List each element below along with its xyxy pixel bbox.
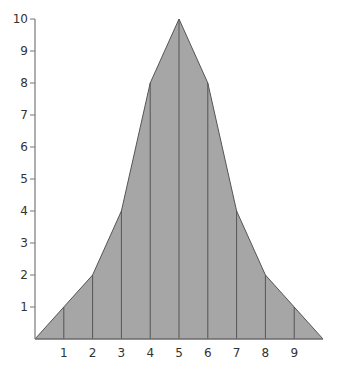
y-tick-label: 5: [20, 172, 28, 186]
x-tick-label: 3: [118, 346, 126, 360]
y-tick-label: 10: [13, 12, 28, 26]
x-tick-label: 7: [233, 346, 241, 360]
area-chart: 123456789 12345678910: [0, 0, 346, 374]
x-tick-label: 9: [290, 346, 298, 360]
y-tick-label: 9: [20, 44, 28, 58]
y-tick-label: 1: [20, 300, 28, 314]
y-tick-label: 6: [20, 140, 28, 154]
y-axis-tick-labels: 12345678910: [13, 12, 28, 314]
x-tick-label: 1: [60, 346, 68, 360]
y-tick-label: 3: [20, 236, 28, 250]
y-tick-label: 8: [20, 76, 28, 90]
y-tick-label: 4: [20, 204, 28, 218]
y-tick-label: 2: [20, 268, 28, 282]
x-tick-label: 2: [89, 346, 97, 360]
x-axis-tick-labels: 123456789: [60, 346, 298, 360]
x-tick-label: 5: [175, 346, 183, 360]
x-tick-label: 8: [262, 346, 270, 360]
y-tick-label: 7: [20, 108, 28, 122]
x-tick-label: 4: [146, 346, 154, 360]
x-tick-label: 6: [204, 346, 212, 360]
